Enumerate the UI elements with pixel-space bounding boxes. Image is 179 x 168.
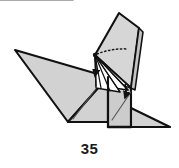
apex-vertex-dot [93,53,97,57]
origami-figure: 35 [0,0,179,168]
step-number-label: 35 [0,140,179,158]
fold-down-arrow-left [95,57,96,76]
paper-panels [15,13,170,127]
fold-down-arrow-right [125,84,126,98]
right-foot-flap-panel [131,108,170,127]
